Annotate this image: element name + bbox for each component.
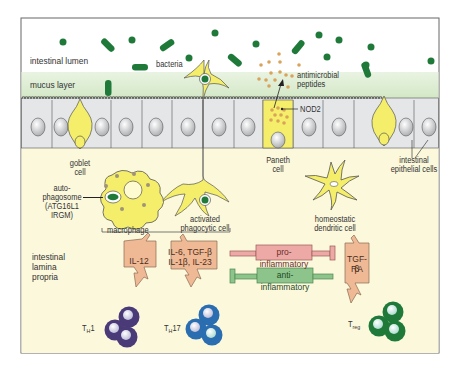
epithelial-label-2: epithelial cells bbox=[388, 165, 441, 174]
th17-suffix: 17 bbox=[172, 323, 180, 333]
treg-cytokine-text-2: RA bbox=[345, 264, 369, 274]
treg-sub: reg bbox=[353, 324, 361, 330]
th17-cytokine-text-2: IL-1β, IL-23 bbox=[162, 257, 218, 267]
paneth-label-2: cell bbox=[263, 165, 293, 174]
bacteria-label: bacteria bbox=[156, 60, 183, 69]
amp-label-2: peptides bbox=[297, 80, 325, 89]
nod2-label: NOD2 bbox=[300, 105, 321, 114]
goblet-label-2: cell bbox=[65, 168, 95, 177]
macrophage-label: macrophage bbox=[107, 226, 149, 235]
th1-suffix: 1 bbox=[90, 323, 94, 333]
il12-text: IL-12 bbox=[122, 256, 156, 266]
lumen-label: intestinal lumen bbox=[30, 56, 88, 66]
th1-label: TH1 bbox=[82, 324, 95, 336]
autophagosome-pointer bbox=[83, 197, 103, 198]
autophagosome-label-4: IRGM) bbox=[39, 211, 85, 220]
lamina-label-3: propria bbox=[32, 272, 58, 282]
dendritic-label-2: dendritic cell bbox=[306, 224, 364, 233]
mucus-layer-region bbox=[22, 72, 439, 98]
phagocytic-label-2: phagocytic cell bbox=[174, 224, 236, 233]
paneth-cell bbox=[263, 100, 293, 148]
pro-inflammatory-text: pro-inflammatory bbox=[256, 246, 312, 270]
th17-cytokine-text-1: IL-6, TGF-β bbox=[162, 247, 218, 257]
anti-inflammatory-text: anti-inflammatory bbox=[257, 269, 313, 293]
th17-label: TH17 bbox=[164, 324, 181, 336]
mucus-label: mucus layer bbox=[30, 80, 75, 90]
treg-label: Treg bbox=[348, 320, 360, 332]
